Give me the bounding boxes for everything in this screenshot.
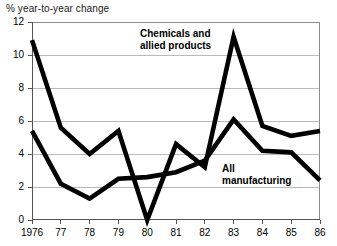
y-tick-label: 0 (2, 215, 24, 225)
x-tick-label: 85 (276, 228, 306, 238)
x-tick-label: 80 (132, 228, 162, 238)
y-tick-label: 10 (2, 50, 24, 60)
annotation-chemicals: Chemicals and allied products (140, 28, 211, 51)
y-tick-label: 2 (2, 182, 24, 192)
annotation-chemicals-line2: allied products (140, 40, 211, 52)
annotation-all-manufacturing-line1: All (222, 163, 291, 175)
x-tick-label: 78 (75, 228, 105, 238)
x-tick-marks (32, 220, 320, 224)
annotation-chemicals-line1: Chemicals and (140, 28, 211, 40)
x-tick-label: 81 (161, 228, 191, 238)
x-tick-label: 82 (190, 228, 220, 238)
x-tick-label: 77 (46, 228, 76, 238)
y-tick-label: 8 (2, 83, 24, 93)
y-tick-label: 6 (2, 116, 24, 126)
x-tick-label: 1976 (17, 228, 47, 238)
annotation-all-manufacturing: All manufacturing (222, 163, 291, 186)
y-tick-label: 4 (2, 149, 24, 159)
x-tick-label: 83 (219, 228, 249, 238)
x-tick-label: 84 (247, 228, 277, 238)
x-tick-label: 79 (103, 228, 133, 238)
series-lines-group (32, 37, 320, 220)
annotation-all-manufacturing-line2: manufacturing (222, 175, 291, 187)
y-tick-label: 12 (2, 17, 24, 27)
x-tick-label: 86 (305, 228, 335, 238)
chart-container: % year-to-year change 121086420 19767778… (0, 0, 337, 246)
y-tick-marks (28, 22, 32, 220)
